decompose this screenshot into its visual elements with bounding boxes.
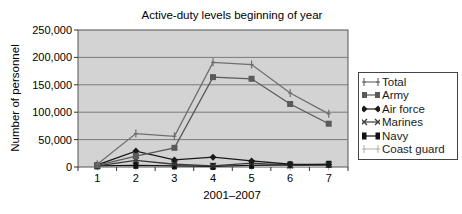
- legend-label: Coast guard: [382, 143, 445, 155]
- y-tick-label: 150,000: [32, 79, 72, 91]
- y-tick-label: 200,000: [32, 51, 72, 63]
- legend-marker-icon: [362, 104, 380, 114]
- legend-item: Army: [362, 89, 454, 103]
- legend-item: Air force: [362, 102, 454, 116]
- legend-label: Navy: [382, 130, 408, 142]
- legend-item: Navy: [362, 129, 454, 143]
- chart-title: Active-duty levels beginning of year: [142, 9, 323, 21]
- plot-area: [78, 30, 348, 167]
- x-tick-label: 7: [326, 172, 332, 184]
- legend-marker-icon: [362, 90, 380, 100]
- legend-label: Marines: [382, 116, 423, 128]
- legend-label: Total: [382, 76, 406, 88]
- y-tick-label: 0: [66, 161, 72, 173]
- legend-marker-icon: [362, 117, 380, 127]
- x-tick-label: 3: [171, 172, 177, 184]
- y-axis-ticks: 050,000100,000150,000200,000250,000: [32, 24, 78, 173]
- legend-item: Coast guard: [362, 143, 454, 157]
- x-tick-label: 2: [133, 172, 139, 184]
- x-tick-label: 1: [94, 172, 100, 184]
- legend-marker-icon: [362, 77, 380, 87]
- legend-label: Air force: [382, 103, 425, 115]
- chart-legend: TotalArmyAir forceMarinesNavyCoast guard: [358, 72, 458, 160]
- y-tick-label: 100,000: [32, 106, 72, 118]
- x-tick-label: 6: [287, 172, 293, 184]
- x-tick-label: 4: [210, 172, 216, 184]
- y-tick-label: 250,000: [32, 24, 72, 36]
- legend-item: Marines: [362, 116, 454, 130]
- y-tick-label: 50,000: [38, 134, 72, 146]
- legend-label: Army: [382, 89, 409, 101]
- legend-item: Total: [362, 75, 454, 89]
- x-tick-label: 5: [249, 172, 255, 184]
- legend-marker-icon: [362, 144, 380, 154]
- x-axis-title: 2001–2007: [203, 189, 261, 201]
- legend-marker-icon: [362, 131, 380, 141]
- y-axis-title: Number of personnel: [9, 44, 21, 151]
